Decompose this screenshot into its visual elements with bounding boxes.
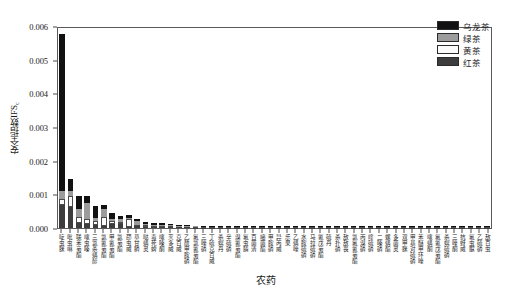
stacked-bar[interactable] — [484, 226, 489, 228]
stacked-bar[interactable] — [368, 226, 373, 228]
stacked-bar[interactable] — [193, 226, 198, 228]
stacked-bar[interactable] — [201, 226, 206, 228]
stacked-bar[interactable] — [93, 206, 98, 228]
stacked-bar[interactable] — [76, 196, 81, 228]
stacked-bar[interactable] — [418, 226, 423, 228]
x-tick-label-text: 硫丹 — [326, 234, 332, 246]
x-tick-label-text: 喹硫磷 — [368, 234, 374, 252]
stacked-bar[interactable] — [134, 219, 139, 228]
bar-segment-black — [93, 225, 98, 228]
x-tick-mark — [141, 229, 149, 233]
stacked-bar[interactable] — [376, 226, 381, 228]
x-tick-label: 杀螟丹 — [216, 234, 224, 272]
bar-segment-black — [159, 227, 164, 228]
stacked-bar[interactable] — [318, 226, 323, 228]
x-tick-label: 抗蚜威 — [458, 234, 466, 272]
x-tick-label: 乙硫磷 — [475, 234, 483, 272]
bar-segment-yellow — [59, 199, 64, 206]
x-tick-label-text: 二嗪磷 — [376, 234, 382, 252]
legend-item[interactable]: 红茶 — [437, 56, 490, 67]
stacked-bar[interactable] — [251, 226, 256, 228]
stacked-bar[interactable] — [218, 226, 223, 228]
stacked-bar[interactable] — [59, 34, 64, 228]
stacked-bar[interactable] — [243, 226, 248, 228]
bar-slot — [183, 28, 191, 228]
stacked-bar[interactable] — [301, 226, 306, 228]
x-tick-label: 二嗪磷 — [375, 234, 383, 272]
stacked-bar[interactable] — [84, 196, 89, 228]
x-tick-label-text: 毒死蜱 — [150, 234, 156, 252]
x-tick-label: 氯菊酯 — [116, 234, 124, 272]
stacked-bar[interactable] — [468, 226, 473, 228]
stacked-bar[interactable] — [143, 222, 148, 228]
stacked-bar[interactable] — [151, 223, 156, 228]
stacked-bar[interactable] — [401, 226, 406, 228]
stacked-bar[interactable] — [118, 216, 123, 228]
x-tick-label-text: 辛硫磷 — [226, 234, 232, 252]
bar-slot — [366, 28, 374, 228]
x-tick-label-text: 氟虫脲 — [468, 234, 474, 252]
stacked-bar[interactable] — [309, 226, 314, 228]
x-tick-mark — [341, 229, 349, 233]
stacked-bar[interactable] — [159, 223, 164, 228]
x-tick-label: 丙溴磷 — [358, 234, 366, 272]
x-tick-label-text: 溴氰菊酯 — [234, 234, 240, 258]
x-tick-label: 喹硫磷 — [366, 234, 374, 272]
y-tick-label: 0.005 — [29, 56, 48, 66]
x-tick-label: 乐果 — [283, 234, 291, 272]
bar-slot — [83, 28, 91, 228]
stacked-bar[interactable] — [426, 226, 431, 228]
bar-slot — [416, 28, 424, 228]
x-tick-mark — [57, 229, 65, 233]
x-tick-mark — [325, 229, 333, 233]
stacked-bar[interactable] — [268, 226, 273, 228]
x-tick-mark — [467, 229, 475, 233]
stacked-bar[interactable] — [343, 226, 348, 228]
stacked-bar[interactable] — [443, 226, 448, 228]
legend-item[interactable]: 乌龙茶 — [437, 20, 490, 31]
x-tick-label-text: 百菌清 — [251, 234, 257, 252]
stacked-bar[interactable] — [101, 205, 106, 228]
stacked-bar[interactable] — [68, 179, 73, 228]
x-tick-label: 杀螟硫磷 — [442, 234, 450, 272]
x-tick-mark — [74, 229, 82, 233]
stacked-bar[interactable] — [393, 226, 398, 228]
stacked-bar[interactable] — [476, 226, 481, 228]
stacked-bar[interactable] — [293, 226, 298, 228]
stacked-bar[interactable] — [359, 226, 364, 228]
x-tick-label-text: 噻嗪酮 — [159, 234, 165, 252]
stacked-bar[interactable] — [334, 226, 339, 228]
bar-segment-yellow — [68, 196, 73, 208]
stacked-bar[interactable] — [459, 226, 464, 228]
stacked-bar[interactable] — [109, 213, 114, 228]
stacked-bar[interactable] — [234, 226, 239, 228]
x-tick-label-text: 啶虫脒 — [58, 234, 64, 252]
stacked-bar[interactable] — [184, 225, 189, 228]
x-tick-mark — [132, 229, 140, 233]
stacked-bar[interactable] — [226, 226, 231, 228]
x-tick-label: 氟虫脲 — [467, 234, 475, 272]
x-axis-ticks — [57, 229, 492, 233]
x-tick-mark — [107, 229, 115, 233]
stacked-bar[interactable] — [409, 226, 414, 228]
stacked-bar[interactable] — [434, 226, 439, 228]
bar-slot — [266, 28, 274, 228]
x-tick-mark — [182, 229, 190, 233]
stacked-bar[interactable] — [126, 215, 131, 228]
stacked-bar[interactable] — [209, 226, 214, 228]
stacked-bar[interactable] — [176, 225, 181, 228]
legend: 乌龙茶绿茶黄茶红茶 — [437, 20, 490, 67]
legend-item[interactable]: 绿茶 — [437, 32, 490, 43]
stacked-bar[interactable] — [326, 226, 331, 228]
stacked-bar[interactable] — [284, 226, 289, 228]
stacked-bar[interactable] — [451, 226, 456, 228]
x-tick-label-text: 哒螨灵 — [142, 234, 148, 252]
stacked-bar[interactable] — [384, 226, 389, 228]
stacked-bar[interactable] — [168, 224, 173, 228]
stacked-bar[interactable] — [259, 226, 264, 228]
stacked-bar[interactable] — [276, 226, 281, 228]
legend-label: 红茶 — [463, 56, 481, 68]
stacked-bar[interactable] — [351, 226, 356, 228]
bar-slot — [208, 28, 216, 228]
legend-item[interactable]: 黄茶 — [437, 44, 490, 55]
